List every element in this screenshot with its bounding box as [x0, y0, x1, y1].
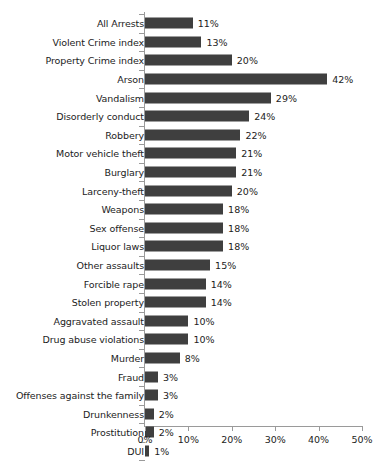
bar: [145, 92, 271, 103]
bar-value-label: 13%: [206, 36, 227, 47]
category-label: Stolen property: [72, 297, 144, 308]
bar-value-label: 14%: [211, 278, 232, 289]
category-label: Arson: [117, 74, 144, 85]
bar: [145, 353, 180, 364]
y-axis-tick: [139, 181, 145, 182]
bar-container: 24%: [145, 111, 275, 122]
bar-container: 18%: [145, 222, 249, 233]
bar-row: Aggravated assault10%: [0, 312, 384, 331]
bar-chart: All Arrests11%Violent Crime index13%Prop…: [0, 0, 384, 462]
bar-value-label: 2%: [159, 408, 174, 419]
x-axis-tick-label: 40%: [308, 434, 329, 445]
bar-container: 42%: [145, 74, 353, 85]
bar: [145, 222, 223, 233]
bar-row: Stolen property14%: [0, 293, 384, 312]
y-axis-tick: [139, 349, 145, 350]
x-axis-tick: [319, 426, 320, 431]
bar-row: Violent Crime index13%: [0, 33, 384, 52]
bar-container: 20%: [145, 55, 258, 66]
bar-value-label: 10%: [193, 315, 214, 326]
x-axis-tick-label: 20%: [221, 434, 242, 445]
bar-container: 2%: [145, 408, 174, 419]
y-axis-tick: [139, 293, 145, 294]
bar: [145, 111, 249, 122]
bar: [145, 260, 210, 271]
category-label: Motor vehicle theft: [56, 148, 144, 159]
bar-row: Offenses against the family3%: [0, 386, 384, 405]
bar-value-label: 18%: [228, 204, 249, 215]
bar: [145, 297, 206, 308]
y-axis-tick: [139, 33, 145, 34]
bar: [145, 148, 236, 159]
category-label: Drug abuse violations: [42, 334, 144, 345]
bar-row: Drunkenness2%: [0, 405, 384, 424]
bar-row: Motor vehicle theft21%: [0, 144, 384, 163]
bar: [145, 408, 154, 419]
bar-value-label: 20%: [237, 185, 258, 196]
y-axis-tick: [139, 405, 145, 406]
bar: [145, 55, 232, 66]
category-label: Prostitution: [91, 427, 144, 438]
x-axis-tick: [145, 426, 146, 431]
bar-row: Other assaults15%: [0, 256, 384, 275]
x-axis-tick-label: 0%: [137, 434, 152, 445]
category-label: Drunkenness: [83, 408, 144, 419]
bar: [145, 315, 188, 326]
bar-container: 22%: [145, 129, 267, 140]
category-label: Disorderly conduct: [56, 111, 144, 122]
bar-container: 20%: [145, 185, 258, 196]
bar-value-label: 15%: [215, 260, 236, 271]
y-axis-tick: [139, 200, 145, 201]
bar-value-label: 1%: [154, 446, 169, 457]
bar-value-label: 18%: [228, 222, 249, 233]
y-axis-tick: [139, 312, 145, 313]
bar: [145, 390, 158, 401]
bar-container: 10%: [145, 315, 215, 326]
category-label: Larceny-theft: [82, 185, 144, 196]
x-axis-tick: [232, 426, 233, 431]
bar-row: All Arrests11%: [0, 14, 384, 33]
y-axis-tick: [139, 274, 145, 275]
y-axis-tick: [139, 14, 145, 15]
bar: [145, 446, 149, 457]
y-axis-tick: [139, 460, 145, 461]
category-label: Liquor laws: [91, 241, 144, 252]
category-label: Burglary: [105, 167, 145, 178]
y-axis-tick: [139, 256, 145, 257]
y-axis-tick: [139, 219, 145, 220]
bar-value-label: 11%: [198, 18, 219, 29]
y-axis-tick: [139, 330, 145, 331]
category-label: Fraud: [118, 371, 144, 382]
category-label: Vandalism: [96, 92, 144, 103]
bar: [145, 36, 201, 47]
y-axis-tick: [139, 51, 145, 52]
bar-row: Arson42%: [0, 70, 384, 89]
bar-container: 15%: [145, 260, 236, 271]
bar-container: 1%: [145, 446, 169, 457]
bar: [145, 129, 240, 140]
bar-value-label: 3%: [163, 371, 178, 382]
bar-value-label: 2%: [159, 427, 174, 438]
y-axis-tick: [139, 386, 145, 387]
bar-row: Robbery22%: [0, 126, 384, 145]
bar-value-label: 14%: [211, 297, 232, 308]
bar-container: 18%: [145, 241, 249, 252]
bar: [145, 278, 206, 289]
y-axis-tick: [139, 237, 145, 238]
y-axis-tick: [139, 423, 145, 424]
bar: [145, 74, 327, 85]
bar-row: Burglary21%: [0, 163, 384, 182]
category-label: DUI: [127, 446, 144, 457]
bar-value-label: 21%: [241, 148, 262, 159]
category-label: Murder: [111, 353, 144, 364]
bar-row: Murder8%: [0, 349, 384, 368]
y-axis-tick: [139, 163, 145, 164]
bar-value-label: 18%: [228, 241, 249, 252]
bar-row: Weapons18%: [0, 200, 384, 219]
x-axis-tick: [275, 426, 276, 431]
bar-container: 21%: [145, 167, 262, 178]
bar-container: 29%: [145, 92, 297, 103]
bar-value-label: 20%: [237, 55, 258, 66]
category-label: Other assaults: [77, 260, 144, 271]
bar-container: 10%: [145, 334, 215, 345]
